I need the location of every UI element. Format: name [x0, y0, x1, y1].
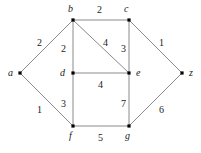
edge-weight-c-z: 1	[159, 38, 164, 48]
vertex-label-e: e	[136, 68, 140, 78]
vertex-dot-b	[71, 18, 74, 21]
vertex-label-c: c	[124, 4, 128, 14]
vertex-dot-f	[71, 124, 74, 127]
edge-weight-f-g: 5	[98, 133, 103, 143]
edge-weight-g-z: 6	[159, 105, 164, 115]
edge-weight-a-b: 2	[37, 38, 42, 48]
edges-group	[20, 20, 182, 126]
weighted-graph-diagram: 222431431756abcdefgz	[0, 0, 201, 153]
vertex-label-d: d	[60, 68, 65, 78]
edge-weight-b-d: 2	[61, 44, 66, 54]
vertex-dot-a	[18, 71, 21, 74]
edge-c-z	[129, 20, 182, 73]
graph-canvas	[0, 0, 201, 153]
vertex-dot-c	[127, 18, 130, 21]
vertex-dot-z	[180, 71, 183, 74]
vertex-dot-e	[127, 71, 130, 74]
edge-weight-e-g: 7	[121, 99, 126, 109]
edge-weight-a-f: 1	[37, 105, 42, 115]
vertex-label-b: b	[68, 4, 73, 14]
vertex-dot-g	[127, 124, 130, 127]
edge-g-z	[129, 73, 182, 126]
edge-weight-d-e: 4	[98, 80, 103, 90]
edge-weight-d-f: 3	[61, 99, 66, 109]
vertex-label-z: z	[189, 68, 193, 78]
vertex-label-g: g	[125, 131, 130, 141]
edge-weight-b-c: 2	[97, 5, 102, 15]
vertex-label-f: f	[69, 131, 72, 141]
edge-weight-c-e: 3	[121, 44, 126, 54]
vertex-dot-d	[71, 71, 74, 74]
vertex-label-a: a	[8, 68, 13, 78]
edge-weight-b-e: 4	[103, 38, 108, 48]
